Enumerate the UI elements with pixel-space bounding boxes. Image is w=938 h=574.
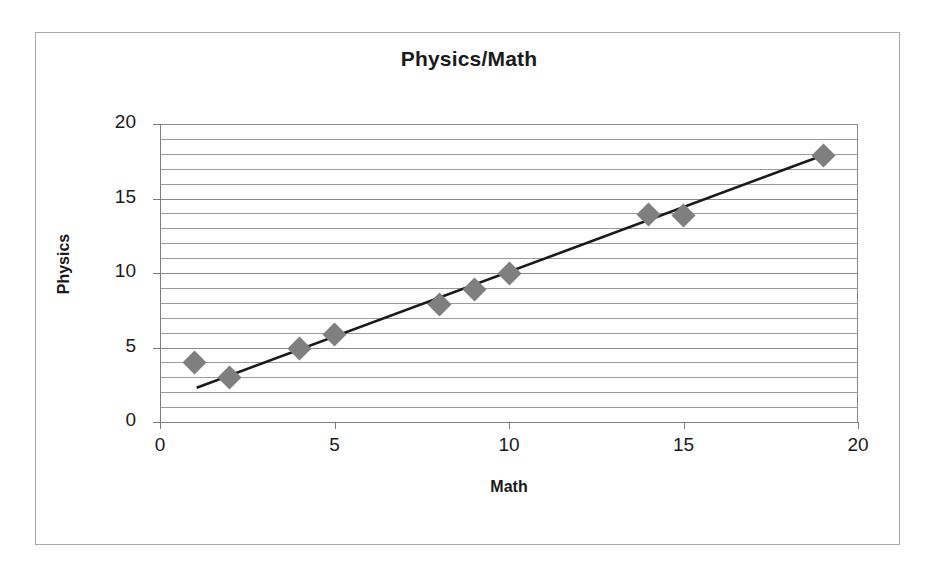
y-tick-label-10: 10 <box>84 260 136 282</box>
gridline-y-14 <box>160 213 858 214</box>
y-tick-15 <box>153 199 161 200</box>
gridline-y-11 <box>160 258 858 259</box>
y-tick-label-0: 0 <box>84 409 136 431</box>
gridline-y-4 <box>160 362 858 363</box>
y-tick-10 <box>153 273 161 274</box>
gridline-y-19 <box>160 139 858 140</box>
x-tick-10 <box>509 422 510 429</box>
gridline-y-9 <box>160 288 858 289</box>
x-tick-label-10: 10 <box>479 434 539 456</box>
x-tick-label-20: 20 <box>828 434 888 456</box>
gridline-y-12 <box>160 243 858 244</box>
gridline-y-8 <box>160 303 858 304</box>
gridline-y-18 <box>160 154 858 155</box>
x-axis-title: Math <box>160 478 858 496</box>
gridline-y-16 <box>160 184 858 185</box>
gridline-y-17 <box>160 169 858 170</box>
gridline-y-13 <box>160 228 858 229</box>
y-tick-0 <box>153 422 161 423</box>
x-tick-label-5: 5 <box>305 434 365 456</box>
gridline-y-3 <box>160 377 858 378</box>
x-tick-label-0: 0 <box>130 434 190 456</box>
x-tick-5 <box>335 422 336 429</box>
chart-canvas: Physics/Math Math Physics 05101520051015… <box>0 0 938 574</box>
y-tick-label-5: 5 <box>84 335 136 357</box>
chart-title: Physics/Math <box>0 47 938 71</box>
y-tick-5 <box>153 348 161 349</box>
gridline-y-7 <box>160 318 858 319</box>
gridline-y-15 <box>160 199 858 200</box>
gridline-y-6 <box>160 333 858 334</box>
x-tick-20 <box>858 422 859 429</box>
gridline-y-2 <box>160 392 858 393</box>
y-tick-label-15: 15 <box>84 186 136 208</box>
plot-top-border <box>160 124 858 125</box>
gridline-y-5 <box>160 348 858 349</box>
gridline-y-1 <box>160 407 858 408</box>
y-tick-20 <box>153 124 161 125</box>
y-axis-title: Physics <box>55 194 73 334</box>
x-tick-0 <box>160 422 161 429</box>
x-tick-label-15: 15 <box>654 434 714 456</box>
x-tick-15 <box>684 422 685 429</box>
y-tick-label-20: 20 <box>84 111 136 133</box>
